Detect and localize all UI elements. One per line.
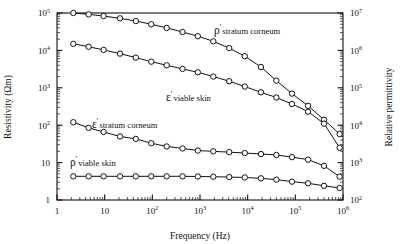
data-point-marker [211,149,216,154]
x-tick-label: 105 [289,204,301,216]
data-point-marker [86,125,91,130]
data-point-marker [117,174,122,179]
series-line [73,176,339,188]
data-point-marker [86,12,91,17]
data-point-marker [180,29,185,34]
data-point-marker [101,129,106,134]
data-point-marker [305,109,310,114]
data-point-marker [321,183,326,188]
y-tick-label-left: 10 [41,158,51,168]
y-axis-right-tick-labels: 102103104105106107 [350,7,362,206]
data-point-marker [101,174,106,179]
data-point-marker [289,91,294,96]
data-point-marker [164,63,169,68]
y-tick-label-right: 104 [350,119,362,131]
data-point-marker [86,174,91,179]
data-point-marker [71,174,76,179]
data-point-marker [227,45,232,50]
data-point-marker [133,18,138,23]
data-point-marker [71,120,76,125]
data-point-marker [71,41,76,46]
data-point-marker [274,78,279,83]
data-point-marker [195,33,200,38]
data-point-marker [164,144,169,149]
y-tick-label-right: 102 [350,194,362,206]
data-point-marker [274,95,279,100]
data-point-marker [180,66,185,71]
data-point-marker [337,174,342,179]
series-line [73,13,339,134]
y-tick-label-left: 105 [38,7,50,19]
figure-container: 110102103104105106 110102103104105 10210… [0,0,402,244]
annotation-eps-viable-skin: ε'viable skin [166,90,212,104]
data-point-marker [149,174,154,179]
plot-border [57,13,343,200]
data-point-marker [289,101,294,106]
data-point-marker [258,90,263,95]
resistivity-permittivity-chart: 110102103104105106 110102103104105 10210… [0,0,402,244]
data-point-marker [289,154,294,159]
series--viable-skin [71,174,343,191]
data-point-marker [117,134,122,139]
data-point-marker [149,22,154,27]
data-point-marker [242,53,247,58]
data-point-marker [117,51,122,56]
data-point-marker [242,150,247,155]
y-axis-right-ticks [338,13,344,200]
data-point-marker [149,59,154,64]
annotation-rho-stratum-corneum: ρ'stratum corneum [214,23,281,38]
data-point-marker [133,55,138,60]
data-point-marker [180,174,185,179]
x-axis-tick-labels: 110102103104105106 [55,204,349,216]
data-point-marker [305,103,310,108]
data-point-marker [71,10,76,15]
data-point-marker [195,148,200,153]
x-tick-label: 104 [242,204,254,216]
plot-frame [57,13,343,200]
data-point-marker [258,176,263,181]
y-tick-label-left: 104 [38,44,50,56]
data-point-marker [211,174,216,179]
data-point-marker [133,174,138,179]
y-tick-label-left: 1 [46,195,51,205]
data-point-marker [274,177,279,182]
data-point-marker [227,174,232,179]
data-point-marker [211,74,216,79]
y-tick-label-right: 106 [350,44,362,56]
data-point-marker [274,152,279,157]
data-point-marker [195,70,200,75]
y-axis-left-ticks [57,13,63,200]
annotation-rho-viable-skin: ρ'viable skin [70,155,116,170]
data-point-marker [258,64,263,69]
y-axis-left-tick-labels: 110102103104105 [38,7,51,206]
data-point-marker [321,121,326,126]
data-point-marker [337,131,342,136]
x-tick-label: 1 [55,206,60,216]
series-line [73,122,339,176]
data-point-marker [242,175,247,180]
y-tick-label-right: 105 [350,82,362,94]
data-point-marker [101,13,106,18]
data-point-marker [305,157,310,162]
data-point-marker [149,141,154,146]
y-tick-label-left: 102 [38,119,50,131]
data-point-marker [211,39,216,44]
x-axis-title: Frequency (Hz) [170,231,230,242]
y-axis-right-title: Relative permittivity [384,67,394,146]
y-tick-label-right: 107 [350,7,362,19]
data-point-marker [164,174,169,179]
data-point-marker [117,16,122,21]
annotation-eps-stratum-corneum: ε'stratum corneum [92,117,158,131]
x-tick-label: 103 [194,204,206,216]
data-point-marker [227,149,232,154]
data-point-marker [164,25,169,30]
x-tick-label: 102 [146,204,158,216]
data-point-marker [195,174,200,179]
data-point-marker [289,179,294,184]
data-point-marker [86,44,91,49]
data-point-marker [101,47,106,52]
data-point-marker [337,145,342,150]
y-tick-label-left: 103 [38,82,50,94]
data-point-marker [258,151,263,156]
x-tick-label: 10 [100,206,110,216]
